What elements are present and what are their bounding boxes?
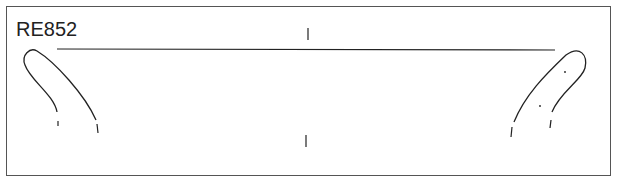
left-break-outer (97, 124, 98, 133)
rim-line (57, 49, 555, 50)
inclusion-dot (564, 71, 566, 73)
inclusion-dot (539, 105, 541, 107)
right-profile (514, 51, 586, 122)
right-break-inner (550, 120, 551, 128)
rim-profile-drawing (0, 0, 619, 184)
left-profile (24, 50, 96, 120)
right-break-outer (511, 127, 512, 137)
